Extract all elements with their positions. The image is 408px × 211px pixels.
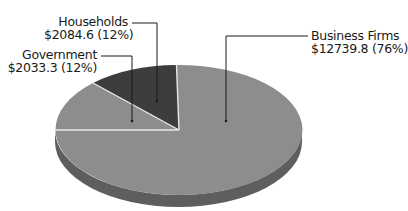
label-government: Government $2033.3 (12%) <box>0 48 97 74</box>
label-households: Households $2084.6 (12%) <box>44 15 128 41</box>
label-business-value: $12739.8 (76%) <box>311 42 408 55</box>
label-government-value: $2033.3 (12%) <box>0 61 97 74</box>
label-households-value: $2084.6 (12%) <box>44 28 128 41</box>
label-business-firms: Business Firms $12739.8 (76%) <box>311 29 408 55</box>
